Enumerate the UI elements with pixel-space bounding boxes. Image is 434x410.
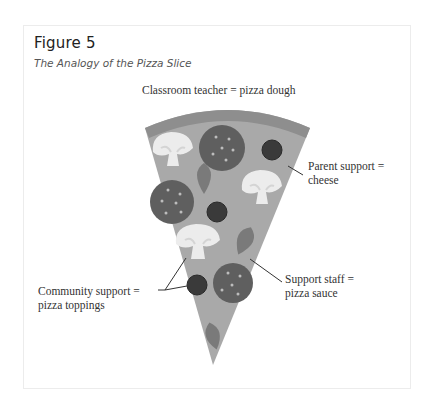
olive-icon [187,275,207,295]
label-support-staff: Support staff = pizza sauce [285,272,354,300]
leader-line-sauce [250,259,282,282]
label-parent-support: Parent support = cheese [308,159,384,187]
label-classroom-teacher: Classroom teacher = pizza dough [142,83,295,97]
label-community-support: Community support = pizza toppings [38,284,140,312]
pepperoni-icon [150,180,194,224]
label-parent-support-line2: cheese [308,173,384,187]
olive-icon [262,140,282,160]
pepperoni-icon [199,125,245,171]
label-support-staff-line1: Support staff = [285,272,354,286]
label-support-staff-line2: pizza sauce [285,286,354,300]
label-community-support-line2: pizza toppings [38,298,140,312]
pepperoni-icon [213,263,253,303]
label-parent-support-line1: Parent support = [308,159,384,173]
label-community-support-line1: Community support = [38,284,140,298]
olive-icon [207,202,227,222]
pizza-slice-illustration [0,0,434,410]
